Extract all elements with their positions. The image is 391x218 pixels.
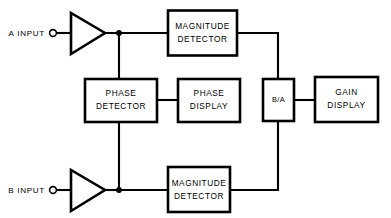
amplifier-a-triangle-icon xyxy=(71,13,105,54)
magnitude-detector-b-label-line2: DETECTOR xyxy=(174,191,224,201)
phase-detector-label-line2: DETECTOR xyxy=(96,101,146,111)
magnitude-detector-b-box xyxy=(168,167,230,212)
input-a-terminal-icon xyxy=(50,30,57,37)
wire-magnitude-detector-b-to-ratio xyxy=(230,121,278,190)
junction-dot-b xyxy=(116,187,122,193)
amplifier-b-triangle-icon xyxy=(71,170,105,211)
junction-dot-a xyxy=(116,30,122,36)
magnitude-detector-a-label-line1: MAGNITUDE xyxy=(175,21,230,31)
phase-display-label-line2: DISPLAY xyxy=(190,101,228,111)
magnitude-detector-a-box xyxy=(168,11,237,56)
ratio-block-label: B/A xyxy=(272,95,285,104)
magnitude-detector-a-label-line2: DETECTOR xyxy=(178,34,228,44)
gain-display-label-line2: DISPLAY xyxy=(327,100,365,110)
input-a-label: A INPUT xyxy=(9,29,45,38)
magnitude-detector-b-label-line1: MAGNITUDE xyxy=(172,178,227,188)
block-diagram: MAGNITUDE DETECTOR PHASE DETECTOR PHASE … xyxy=(0,0,391,218)
input-b-terminal-icon xyxy=(50,187,57,194)
phase-display-label-line1: PHASE xyxy=(194,88,225,98)
diagram-canvas: MAGNITUDE DETECTOR PHASE DETECTOR PHASE … xyxy=(0,0,391,218)
gain-display-label-line1: GAIN xyxy=(335,87,357,97)
wire-magnitude-detector-a-to-ratio xyxy=(237,33,278,79)
input-b-label: B INPUT xyxy=(8,186,45,195)
phase-detector-label-line1: PHASE xyxy=(106,88,137,98)
